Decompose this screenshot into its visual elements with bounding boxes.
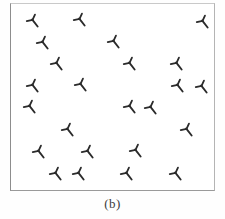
arrow-tack-icon	[122, 56, 140, 74]
scatter-marker	[71, 166, 89, 184]
scatter-marker	[25, 13, 43, 31]
figure-caption: (b)	[0, 196, 225, 212]
scatter-marker	[48, 166, 66, 184]
arrow-tack-icon	[179, 122, 197, 140]
scatter-marker	[80, 144, 98, 162]
scatter-marker	[31, 144, 49, 162]
arrow-tack-icon	[169, 56, 187, 74]
scatter-marker	[119, 166, 137, 184]
scatter-marker	[73, 77, 91, 95]
figure-panel: (b)	[0, 0, 225, 219]
arrow-tack-icon	[25, 78, 43, 96]
scatter-marker	[60, 122, 78, 140]
arrow-tack-icon	[72, 12, 90, 30]
scatter-marker	[25, 78, 43, 96]
scatter-marker	[22, 99, 40, 117]
scatter-marker	[106, 34, 124, 52]
scatter-marker	[72, 12, 90, 30]
arrow-tack-icon	[119, 166, 137, 184]
arrow-tack-icon	[195, 14, 213, 32]
arrow-tack-icon	[143, 100, 161, 118]
scatter-marker	[168, 166, 186, 184]
scatter-marker	[35, 35, 53, 53]
arrow-tack-icon	[35, 35, 53, 53]
scatter-marker	[179, 122, 197, 140]
arrow-tack-icon	[31, 144, 49, 162]
scatter-marker	[194, 79, 212, 97]
arrow-tack-icon	[49, 56, 67, 74]
arrow-tack-icon	[60, 122, 78, 140]
arrow-tack-icon	[170, 78, 188, 96]
arrow-tack-icon	[22, 99, 40, 117]
arrow-tack-icon	[73, 77, 91, 95]
scatter-marker	[122, 56, 140, 74]
scatter-marker	[195, 14, 213, 32]
scatter-marker	[169, 56, 187, 74]
scatter-marker	[122, 99, 140, 117]
arrow-tack-icon	[80, 144, 98, 162]
arrow-tack-icon	[168, 166, 186, 184]
arrow-tack-icon	[194, 79, 212, 97]
scatter-marker	[143, 100, 161, 118]
scatter-marker	[49, 56, 67, 74]
scatter-marker	[128, 143, 146, 161]
arrow-tack-icon	[128, 143, 146, 161]
arrow-tack-icon	[25, 13, 43, 31]
scatter-marker	[170, 78, 188, 96]
arrow-tack-icon	[71, 166, 89, 184]
arrow-tack-icon	[106, 34, 124, 52]
arrow-tack-icon	[122, 99, 140, 117]
arrow-tack-icon	[48, 166, 66, 184]
scatter-plot-box	[10, 3, 215, 191]
